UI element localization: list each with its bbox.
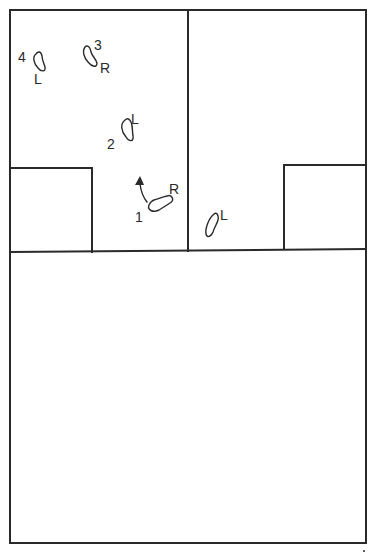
floor-plan-diagram: 4 L 3 R L 2 R 1 L [0,0,375,557]
right-foot-icon [149,196,173,212]
step-number: 2 [107,136,115,152]
step-number: 4 [18,49,26,65]
step-side: R [100,60,110,76]
step-side: R [169,181,179,197]
step-number: 1 [135,209,143,225]
footprint-step-3: 3 R [84,37,111,76]
step-side: L [220,207,228,223]
left-foot-icon [34,52,45,71]
footprint-extra: L [206,207,228,236]
dot-mark [363,550,365,552]
step-side: L [34,71,42,87]
arrow-up-icon [135,176,147,202]
left-foot-icon [206,213,218,236]
footprint-step-1: R 1 [135,176,179,225]
right-box [284,165,366,249]
footprint-step-4: 4 L [18,49,45,87]
step-number: 3 [94,37,102,53]
left-box [10,168,92,252]
footprint-step-2: L 2 [107,111,139,152]
step-side: L [131,111,139,127]
